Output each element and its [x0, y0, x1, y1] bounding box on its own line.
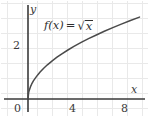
equals-sign: =: [64, 18, 78, 32]
y-axis-label: y: [30, 4, 36, 15]
function-graph-figure: 0 4 8 2 y x f(x)=√x: [0, 0, 149, 120]
function-equation-label: f(x)=√x: [44, 19, 93, 32]
radical-icon: √: [77, 19, 84, 33]
radicand: x: [85, 20, 94, 33]
x-axis-label: x: [131, 84, 137, 95]
y-tick-label-2: 2: [13, 40, 20, 51]
function-argument: (x): [48, 18, 63, 32]
x-tick-label-4: 4: [69, 103, 76, 114]
x-tick-label-0: 0: [14, 103, 21, 114]
x-tick-label-8: 8: [121, 103, 128, 114]
